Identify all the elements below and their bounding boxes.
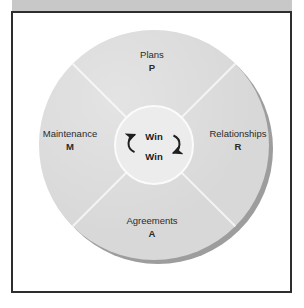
win-label-bottom: Win [116,151,192,162]
wheel-diagram: Plans P Relationships R Agreements A Mai… [0,0,304,308]
sector-label-maintenance: Maintenance M [22,128,118,153]
sector-label-plans: Plans P [104,49,200,74]
sector-name: Maintenance [22,128,118,140]
sector-label-relationships: Relationships R [190,128,286,153]
sector-name: Relationships [190,128,286,140]
sector-letter: A [104,228,200,240]
sector-letter: P [104,62,200,74]
sector-letter: R [190,141,286,153]
sector-letter: M [22,141,118,153]
figure-page: Plans P Relationships R Agreements A Mai… [0,0,304,308]
win-label-top: Win [116,131,192,142]
center-hub: Win Win [114,105,194,185]
sector-name: Plans [104,49,200,61]
sector-name: Agreements [104,215,200,227]
win-win-arrow-cycle-icon [116,107,192,183]
sector-label-agreements: Agreements A [104,215,200,240]
